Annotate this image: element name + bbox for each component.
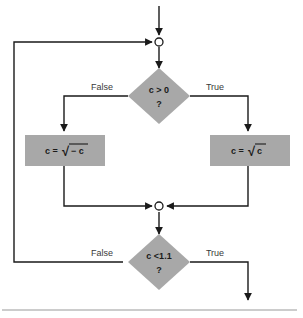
edge-label-decision1-true: True bbox=[206, 82, 224, 92]
flowchart-diagram: c > 0 ? c <1.1 ? c = √ − c c = √ c bbox=[0, 0, 303, 318]
edge-decision1-false bbox=[64, 96, 128, 131]
process-left-radical-icon: √ bbox=[62, 144, 70, 159]
decision-1-line1: c > 0 bbox=[149, 85, 169, 95]
edge-decision1-true-path bbox=[190, 96, 248, 131]
process-node-sqrt-c: c = √ c bbox=[210, 135, 290, 166]
process-right-radical-icon: √ bbox=[248, 144, 256, 159]
edge-label-decision2-true: True bbox=[206, 248, 224, 258]
process-right-radicand: c bbox=[257, 146, 262, 156]
junction-node-top bbox=[155, 38, 163, 46]
edge-decision1-false-path bbox=[64, 96, 128, 131]
edge-decision2-true bbox=[190, 262, 248, 300]
process-right-lhs: c = bbox=[231, 146, 244, 156]
edge-label-decision1-false: False bbox=[91, 82, 113, 92]
decision-1-diamond-shape bbox=[128, 68, 190, 124]
junction-middle-circle bbox=[155, 202, 163, 210]
process-left-radicand: − c bbox=[71, 146, 84, 156]
edge-right-process-to-junction bbox=[167, 166, 248, 206]
decision-node-c-less-1-1: c <1.1 ? bbox=[128, 234, 190, 290]
edge-decision1-true bbox=[190, 96, 248, 131]
junction-node-middle bbox=[155, 202, 163, 210]
decision-2-line2: ? bbox=[156, 265, 162, 275]
edge-right-process-junction-path bbox=[167, 166, 248, 206]
edge-left-process-junction-path bbox=[64, 166, 152, 206]
edge-left-process-to-junction bbox=[64, 166, 152, 206]
decision-2-line1: c <1.1 bbox=[146, 251, 171, 261]
flowchart-canvas: c > 0 ? c <1.1 ? c = √ − c c = √ c bbox=[0, 0, 303, 318]
decision-node-c-greater-0: c > 0 ? bbox=[128, 68, 190, 124]
process-left-lhs: c = bbox=[45, 146, 58, 156]
edge-decision2-true-path bbox=[190, 262, 248, 300]
decision-2-diamond-shape bbox=[128, 234, 190, 290]
edge-label-decision2-false: False bbox=[91, 248, 113, 258]
decision-1-line2: ? bbox=[156, 99, 162, 109]
junction-top-circle bbox=[155, 38, 163, 46]
process-node-sqrt-neg-c: c = √ − c bbox=[25, 135, 105, 166]
